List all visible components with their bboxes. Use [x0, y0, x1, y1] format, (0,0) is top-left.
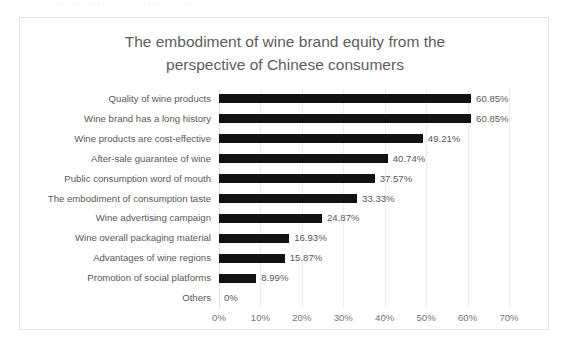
x-tick-label: 60% — [458, 310, 477, 326]
bar — [219, 134, 423, 143]
value-label: 24.87% — [327, 208, 360, 228]
bar-row: Public consumption word of mouth37.57% — [219, 169, 509, 189]
x-tick-label: 20% — [292, 310, 311, 326]
bar-row: Advantages of wine regions15.87% — [219, 248, 509, 268]
x-tick-label: 40% — [375, 310, 394, 326]
bar — [219, 254, 285, 263]
category-label: Others — [11, 288, 211, 308]
category-label: Wine products are cost-effective — [11, 129, 211, 149]
category-label: Quality of wine products — [11, 89, 211, 109]
gridline-70pct — [509, 89, 510, 308]
bar-row: Promotion of social platforms8.99% — [219, 268, 509, 288]
value-label: 40.74% — [393, 149, 426, 169]
value-label: 33.33% — [362, 189, 395, 209]
bar-row: Quality of wine products60.85% — [219, 89, 509, 109]
value-label: 60.85% — [476, 89, 509, 109]
bar — [219, 94, 471, 103]
bar-row: Wine brand has a long history60.85% — [219, 109, 509, 129]
bar-row: The embodiment of consumption taste33.33… — [219, 189, 509, 209]
value-label: 16.93% — [294, 228, 327, 248]
bar — [219, 114, 471, 123]
category-label: Wine brand has a long history — [11, 109, 211, 129]
category-label: Advantages of wine regions — [11, 248, 211, 268]
x-tick-label: 0% — [212, 310, 226, 326]
bar-row: Wine advertising campaign24.87% — [219, 208, 509, 228]
chart-title: The embodiment of wine brand equity from… — [60, 30, 510, 76]
bar — [219, 174, 375, 183]
bar — [219, 214, 322, 223]
category-label: Public consumption word of mouth — [11, 169, 211, 189]
bar-row: Others0% — [219, 288, 509, 308]
x-tick-label: 10% — [251, 310, 270, 326]
bar — [219, 194, 357, 203]
bar — [219, 154, 388, 163]
value-label: 15.87% — [290, 248, 323, 268]
x-axis: 0%10%20%30%40%50%60%70% — [219, 310, 509, 326]
bar-row: After-sale guarantee of wine40.74% — [219, 149, 509, 169]
chart-title-line-2: perspective of Chinese consumers — [60, 53, 510, 76]
value-label: 60.85% — [476, 109, 509, 129]
bar — [219, 274, 256, 283]
bar-row: Wine overall packaging material16.93% — [219, 228, 509, 248]
value-label: 0% — [224, 288, 238, 308]
chart-figure: The embodiment of wine brand equity from… — [19, 17, 549, 330]
category-label: Promotion of social platforms — [11, 268, 211, 288]
category-label: Wine overall packaging material — [11, 228, 211, 248]
category-label: Wine advertising campaign — [11, 208, 211, 228]
value-label: 37.57% — [380, 169, 413, 189]
x-tick-label: 50% — [417, 310, 436, 326]
value-label: 49.21% — [428, 129, 461, 149]
plot-area: Quality of wine products60.85%Wine brand… — [219, 89, 509, 308]
chart-title-line-1: The embodiment of wine brand equity from… — [60, 30, 510, 53]
bar — [219, 234, 289, 243]
value-label: 8.99% — [261, 268, 288, 288]
category-label: After-sale guarantee of wine — [11, 149, 211, 169]
bar-row: Wine products are cost-effective49.21% — [219, 129, 509, 149]
category-label: The embodiment of consumption taste — [11, 189, 211, 209]
x-tick-label: 30% — [334, 310, 353, 326]
x-tick-label: 70% — [499, 310, 518, 326]
scan-artifact-text: · · · · · · · · · · · · · · · · · · · · … — [0, 0, 568, 10]
